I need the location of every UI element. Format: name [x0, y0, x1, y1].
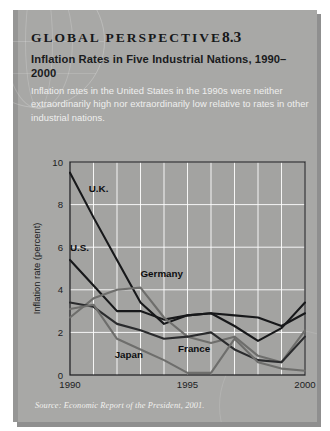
series-label-uk: U.K.: [89, 183, 109, 194]
x-tick-label: 2000: [294, 379, 315, 390]
y-tick-label: 10: [52, 157, 63, 168]
kicker-label: GLOBAL PERSPECTIVE: [31, 30, 222, 45]
x-tick-label: 1995: [177, 379, 198, 390]
panel-headline: Inflation Rates in Five Industrial Natio…: [31, 52, 303, 80]
y-tick-label: 2: [58, 327, 63, 338]
series-label-japan: Japan: [115, 349, 143, 360]
kicker-number: 8.3: [222, 28, 241, 45]
global-perspective-panel: GLOBAL PERSPECTIVE8.3 Inflation Rates in…: [13, 10, 317, 422]
series-label-germany: Germany: [141, 268, 184, 279]
panel-lede: Inflation rates in the United States in …: [31, 84, 309, 124]
panel-kicker: GLOBAL PERSPECTIVE8.3: [31, 28, 241, 46]
line-chart: 0246810199019952000Inflation rate (perce…: [13, 130, 317, 422]
series-label-france: France: [178, 343, 211, 354]
y-tick-label: 6: [58, 242, 63, 253]
chart-container: 0246810199019952000Inflation rate (perce…: [13, 130, 317, 422]
figure-page: GLOBAL PERSPECTIVE8.3 Inflation Rates in…: [0, 0, 330, 431]
source-note: Source: Economic Report of the President…: [35, 401, 205, 410]
y-tick-label: 8: [58, 199, 63, 210]
y-tick-label: 4: [58, 284, 64, 295]
x-tick-label: 1990: [59, 379, 80, 390]
y-axis-title: Inflation rate (percent): [31, 223, 42, 315]
series-label-us: U.S.: [70, 242, 89, 253]
